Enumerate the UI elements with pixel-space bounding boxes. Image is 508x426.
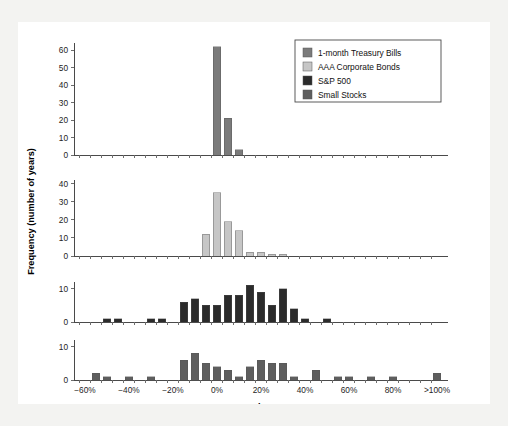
bar-s-p-500-bin-30 <box>279 289 287 322</box>
y-tick-label-panel-1: 50 <box>59 63 69 73</box>
x-tick-label: −20% <box>162 385 184 395</box>
y-tick-label-panel-3: 0 <box>63 317 68 327</box>
bar-aaa-corporate-bonds-bin-15 <box>246 252 254 256</box>
x-tick-label: 0% <box>211 385 224 395</box>
panel-4: 010 <box>59 340 448 385</box>
bar-aaa-corporate-bonds-bin-0 <box>213 193 221 256</box>
bar-s-p-500-bin-35 <box>290 309 298 322</box>
bar-aaa-corporate-bonds-bin-20 <box>257 252 265 256</box>
y-tick-label-panel-1: 10 <box>59 133 69 143</box>
y-tick-label-panel-1: 60 <box>59 45 69 55</box>
bar-small-stocks-bin-60 <box>345 377 353 380</box>
legend-swatch-1 <box>303 48 312 57</box>
bar-small-stocks-bin-55 <box>334 377 342 380</box>
y-tick-label-panel-2: 30 <box>59 197 69 207</box>
bar-aaa-corporate-bonds-bin-25 <box>268 254 276 256</box>
y-tick-label-panel-3: 10 <box>59 284 69 294</box>
bar-small-stocks-bin-35 <box>290 377 298 380</box>
bar-small-stocks-bin-30 <box>279 363 287 380</box>
bar-s-p-500-bin--10 <box>191 299 199 322</box>
x-tick-label: 60% <box>341 385 358 395</box>
x-tick-label: >100% <box>424 385 451 395</box>
bar-small-stocks-bin--50 <box>103 377 111 380</box>
bar-small-stocks-bin-80 <box>389 377 397 380</box>
bar-s-p-500-bin-10 <box>235 295 243 322</box>
bar-s-p-500-bin-40 <box>301 319 309 322</box>
bar-1-month-treasury-bills-bin-10 <box>235 150 243 155</box>
bar-small-stocks-bin-100 <box>433 373 441 380</box>
y-tick-label-panel-1: 40 <box>59 80 69 90</box>
bar-s-p-500-bin--50 <box>103 319 111 322</box>
panel-3: 010 <box>59 282 448 327</box>
bar-aaa-corporate-bonds-bin-5 <box>224 222 232 256</box>
bar-1-month-treasury-bills-bin-5 <box>224 118 232 155</box>
y-tick-label-panel-1: 20 <box>59 115 69 125</box>
bar-s-p-500-bin-50 <box>323 319 331 322</box>
histogram-panels: 0102030405060010203040010010−60%−40%−20%… <box>18 22 490 404</box>
bar-small-stocks-bin--30 <box>147 377 155 380</box>
x-tick-label: 40% <box>297 385 314 395</box>
bar-s-p-500-bin-15 <box>246 285 254 322</box>
legend-swatch-2 <box>303 62 312 71</box>
panel-2: 010203040 <box>59 179 448 261</box>
x-tick-label: 20% <box>253 385 270 395</box>
legend-swatch-4 <box>303 90 312 99</box>
bar-small-stocks-bin-25 <box>268 363 276 380</box>
multi-panel-histogram: 0102030405060010203040010010−60%−40%−20%… <box>18 22 490 404</box>
bar-small-stocks-bin--10 <box>191 353 199 380</box>
bar-s-p-500-bin--30 <box>147 319 155 322</box>
y-tick-label-panel-4: 0 <box>63 375 68 385</box>
x-tick-label: −40% <box>118 385 140 395</box>
bar-small-stocks-bin-70 <box>367 377 375 380</box>
bar-s-p-500-bin--15 <box>180 302 188 322</box>
x-tick-label: 80% <box>385 385 402 395</box>
figure-root: 0102030405060010203040010010−60%−40%−20%… <box>0 0 508 426</box>
bar-small-stocks-bin-0 <box>213 367 221 380</box>
y-tick-label-panel-4: 10 <box>59 342 69 352</box>
legend-label-1: 1-month Treasury Bills <box>318 48 401 58</box>
bar-small-stocks-bin-20 <box>257 360 265 380</box>
y-axis-title: Frequency (number of years) <box>26 148 36 275</box>
bar-s-p-500-bin--5 <box>202 305 210 322</box>
bar-aaa-corporate-bonds-bin-10 <box>235 231 243 256</box>
legend-label-3: S&P 500 <box>318 76 351 86</box>
bar-1-month-treasury-bills-bin-0 <box>213 47 221 156</box>
bar-small-stocks-bin-5 <box>224 370 232 380</box>
bar-s-p-500-bin--45 <box>114 319 122 322</box>
bar-aaa-corporate-bonds-bin-30 <box>279 254 287 256</box>
bar-small-stocks-bin--5 <box>202 363 210 380</box>
y-tick-label-panel-2: 40 <box>59 179 69 189</box>
y-tick-label-panel-2: 0 <box>63 251 68 261</box>
bar-s-p-500-bin-0 <box>213 305 221 322</box>
x-axis-title: Annual Return <box>229 402 293 404</box>
bar-small-stocks-bin-10 <box>235 377 243 380</box>
bar-s-p-500-bin-25 <box>268 305 276 322</box>
legend-label-2: AAA Corporate Bonds <box>318 62 400 72</box>
legend-label-4: Small Stocks <box>318 90 366 100</box>
bar-small-stocks-bin--15 <box>180 360 188 380</box>
bar-aaa-corporate-bonds-bin--5 <box>202 234 210 256</box>
x-tick-label: −60% <box>74 385 96 395</box>
legend-swatch-3 <box>303 76 312 85</box>
bar-s-p-500-bin-20 <box>257 292 265 322</box>
y-tick-label-panel-1: 30 <box>59 98 69 108</box>
y-tick-label-panel-2: 20 <box>59 215 69 225</box>
bar-s-p-500-bin--25 <box>158 319 166 322</box>
bar-small-stocks-bin-45 <box>312 370 320 380</box>
legend: 1-month Treasury BillsAAA Corporate Bond… <box>295 40 441 102</box>
y-tick-label-panel-2: 10 <box>59 233 69 243</box>
bar-small-stocks-bin--55 <box>92 373 100 380</box>
bar-small-stocks-bin--40 <box>125 377 133 380</box>
y-tick-label-panel-1: 0 <box>63 150 68 160</box>
bar-small-stocks-bin-15 <box>246 367 254 380</box>
chart-card: 0102030405060010203040010010−60%−40%−20%… <box>18 22 490 404</box>
bar-s-p-500-bin-5 <box>224 295 232 322</box>
